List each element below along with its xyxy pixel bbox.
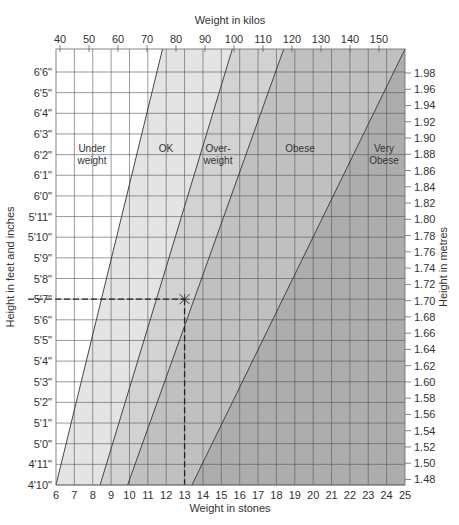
top-tick-label: 100 xyxy=(225,33,243,45)
bottom-tick-label: 12 xyxy=(160,489,172,501)
left-tick-label: 5'2" xyxy=(34,396,52,408)
bottom-tick-label: 20 xyxy=(307,489,319,501)
left-tick-label: 6'6" xyxy=(34,66,52,78)
bottom-tick-label: 16 xyxy=(234,489,246,501)
right-tick-label: 1.72 xyxy=(414,278,435,290)
right-tick-label: 1.76 xyxy=(414,246,435,258)
left-tick-label: 4'10" xyxy=(28,479,52,491)
region-label: OK xyxy=(159,143,174,154)
left-tick-label: 5'9" xyxy=(34,252,52,264)
bottom-tick-label: 7 xyxy=(71,489,77,501)
bottom-axis-stones: 678910111213141516171819202122232425 xyxy=(53,489,411,501)
bottom-tick-label: 9 xyxy=(108,489,114,501)
bottom-tick-label: 25 xyxy=(399,489,411,501)
right-tick-label: 1.78 xyxy=(414,230,435,242)
right-tick-label: 1.52 xyxy=(414,441,435,453)
left-tick-label: 6'0" xyxy=(34,190,52,202)
region-label: Obese xyxy=(285,143,315,154)
left-tick-label: 5'6" xyxy=(34,314,52,326)
weight-category-regions xyxy=(56,49,405,485)
bottom-tick-label: 8 xyxy=(90,489,96,501)
bottom-tick-label: 14 xyxy=(197,489,209,501)
bottom-tick-label: 19 xyxy=(289,489,301,501)
top-tick-label: 140 xyxy=(341,33,359,45)
right-tick-label: 1.82 xyxy=(414,197,435,209)
right-tick-label: 1.68 xyxy=(414,311,435,323)
right-tick-label: 1.64 xyxy=(414,343,435,355)
region-label: weight xyxy=(203,155,233,166)
left-tick-label: 5'1" xyxy=(34,417,52,429)
right-tick-label: 1.62 xyxy=(414,360,435,372)
top-tick-label: 80 xyxy=(170,33,182,45)
right-tick-label: 1.56 xyxy=(414,408,435,420)
left-tick-label: 6'2" xyxy=(34,149,52,161)
left-tick-label: 4'11" xyxy=(28,458,52,470)
left-tick-label: 5'5" xyxy=(34,334,52,346)
bottom-tick-label: 17 xyxy=(252,489,264,501)
right-tick-label: 1.80 xyxy=(414,213,435,225)
left-tick-label: 6'1" xyxy=(34,169,52,181)
bmi-chart: UnderweightOKOver-weightObeseVeryObese 4… xyxy=(0,0,459,525)
right-tick-label: 1.60 xyxy=(414,376,435,388)
bottom-tick-label: 24 xyxy=(381,489,393,501)
right-tick-label: 1.88 xyxy=(414,148,435,160)
left-tick-label: 5'10" xyxy=(28,231,52,243)
right-tick-label: 1.98 xyxy=(414,67,435,79)
bottom-tick-label: 15 xyxy=(215,489,227,501)
bottom-tick-label: 22 xyxy=(344,489,356,501)
region-label: weight xyxy=(77,155,107,166)
top-tick-label: 60 xyxy=(112,33,124,45)
right-tick-label: 1.74 xyxy=(414,262,435,274)
bottom-tick-label: 11 xyxy=(142,489,153,501)
left-tick-label: 5'11" xyxy=(28,211,52,223)
left-tick-label: 6'5" xyxy=(34,87,52,99)
bottom-tick-label: 13 xyxy=(178,489,190,501)
region-label: Over- xyxy=(206,143,231,154)
right-axis-metres: 1.981.961.941.921.901.881.861.841.821.80… xyxy=(405,67,435,485)
top-tick-label: 150 xyxy=(370,33,388,45)
right-tick-label: 1.58 xyxy=(414,392,435,404)
bottom-tick-label: 21 xyxy=(325,489,337,501)
left-axis-label: Height in feet and inches xyxy=(4,206,16,328)
bottom-tick-label: 18 xyxy=(270,489,282,501)
top-axis-label: Weight in kilos xyxy=(195,14,266,26)
bottom-tick-label: 23 xyxy=(362,489,374,501)
top-tick-label: 40 xyxy=(54,33,66,45)
top-tick-label: 70 xyxy=(141,33,153,45)
bottom-axis-label: Weight in stones xyxy=(189,502,271,514)
right-tick-label: 1.92 xyxy=(414,116,435,128)
left-tick-label: 5'7" xyxy=(34,293,52,305)
right-tick-label: 1.50 xyxy=(414,457,435,469)
left-tick-label: 5'3" xyxy=(34,376,52,388)
top-tick-label: 110 xyxy=(254,33,272,45)
left-tick-label: 5'8" xyxy=(34,273,52,285)
region-label: Very xyxy=(374,143,394,154)
right-tick-label: 1.66 xyxy=(414,327,435,339)
right-tick-label: 1.70 xyxy=(414,295,435,307)
top-tick-label: 130 xyxy=(312,33,330,45)
top-tick-label: 90 xyxy=(199,33,211,45)
region-label: Under xyxy=(78,143,106,154)
top-tick-label: 50 xyxy=(83,33,95,45)
left-tick-label: 6'4" xyxy=(34,107,52,119)
right-tick-label: 1.90 xyxy=(414,132,435,144)
bottom-tick-label: 10 xyxy=(123,489,135,501)
right-tick-label: 1.94 xyxy=(414,99,435,111)
right-tick-label: 1.48 xyxy=(414,473,435,485)
left-tick-label: 5'0" xyxy=(34,438,52,450)
left-axis-feet-inches: 6'6"6'5"6'4"6'3"6'2"6'1"6'0"5'11"5'10"5'… xyxy=(28,66,52,491)
right-axis-label: Height in metres xyxy=(437,226,449,307)
right-tick-label: 1.86 xyxy=(414,165,435,177)
top-tick-label: 120 xyxy=(283,33,301,45)
left-tick-label: 6'3" xyxy=(34,128,52,140)
bottom-tick-label: 6 xyxy=(53,489,59,501)
right-tick-label: 1.54 xyxy=(414,425,435,437)
right-tick-label: 1.84 xyxy=(414,181,435,193)
right-tick-label: 1.96 xyxy=(414,83,435,95)
left-tick-label: 5'4" xyxy=(34,355,52,367)
region-label: Obese xyxy=(369,155,399,166)
